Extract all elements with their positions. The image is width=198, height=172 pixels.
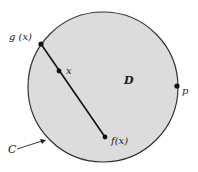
point-g xyxy=(38,41,43,46)
disk-D xyxy=(28,12,178,162)
label-C: C xyxy=(8,143,17,156)
label-p: p xyxy=(182,85,189,96)
disk-diagram: g (x) x D p f(x) C xyxy=(0,0,198,172)
point-x xyxy=(57,69,62,74)
arrow-to-C xyxy=(17,141,42,149)
label-f: f(x) xyxy=(110,135,128,146)
point-f xyxy=(103,135,108,140)
label-D: D xyxy=(123,74,134,87)
label-x: x xyxy=(66,65,72,76)
label-g: g (x) xyxy=(9,31,32,42)
point-p xyxy=(174,83,179,88)
